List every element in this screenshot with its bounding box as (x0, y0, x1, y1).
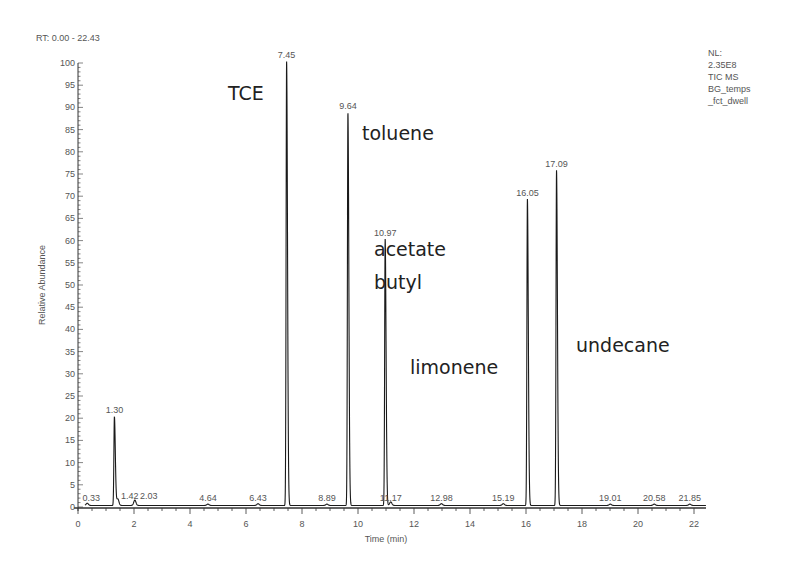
y-tick-label: 50 (65, 280, 75, 290)
y-tick-label: 20 (65, 413, 75, 423)
info-line: NL: (708, 48, 722, 58)
peak-rt-label: 6.43 (249, 493, 267, 503)
info-line: _fct_dwell (707, 96, 748, 106)
y-tick-label: 5 (70, 480, 75, 490)
peak-rt-label: 1.42 (121, 491, 139, 501)
peak-rt-label: 19.01 (599, 493, 622, 503)
y-tick-label: 85 (65, 125, 75, 135)
x-tick-label: 6 (243, 519, 248, 529)
y-tick-label: 0 (70, 502, 75, 512)
peak-rt-label: 8.89 (318, 493, 336, 503)
y-tick-label: 40 (65, 324, 75, 334)
peak-rt-label: 11.17 (380, 493, 402, 503)
x-tick-label: 18 (577, 519, 587, 529)
y-tick-label: 100 (60, 58, 75, 68)
peak-rt-label: 7.45 (278, 50, 296, 60)
x-tick-label: 2 (131, 519, 136, 529)
compound-label: TCE (227, 82, 264, 104)
y-tick-label: 25 (65, 391, 75, 401)
y-tick-label: 60 (65, 236, 75, 246)
compound-label: acetate (374, 238, 446, 260)
peak-rt-label: 15.19 (492, 493, 515, 503)
y-tick-label: 80 (65, 147, 75, 157)
peak-rt-label: 10.97 (374, 228, 397, 238)
peak-rt-label: 12.98 (430, 493, 453, 503)
peak-rt-label: 20.58 (643, 493, 666, 503)
compound-label: toluene (362, 122, 434, 144)
peak-rt-label: 21.85 (679, 493, 702, 503)
x-tick-label: 8 (299, 519, 304, 529)
peak-rt-label: 17.09 (545, 159, 568, 169)
x-tick-label: 0 (75, 519, 80, 529)
y-tick-label: 95 (65, 80, 75, 90)
y-tick-label: 75 (65, 169, 75, 179)
peak-rt-label: 1.30 (106, 405, 124, 415)
x-tick-label: 14 (465, 519, 475, 529)
y-tick-label: 10 (65, 458, 75, 468)
x-tick-label: 20 (633, 519, 643, 529)
y-tick-label: 15 (65, 435, 75, 445)
y-tick-label: 45 (65, 302, 75, 312)
y-tick-label: 90 (65, 102, 75, 112)
info-line: 2.35E8 (708, 60, 737, 70)
compound-label: butyl (374, 271, 422, 293)
peak-rt-label: 4.64 (199, 493, 217, 503)
compound-label: limonene (410, 356, 498, 378)
rt-range-label: RT: 0.00 - 22.43 (36, 33, 100, 43)
info-line: TIC MS (708, 72, 739, 82)
x-tick-label: 10 (353, 519, 363, 529)
y-axis-title: Relative Abundance (37, 245, 47, 325)
peak-rt-label: 0.33 (82, 493, 100, 503)
y-tick-label: 70 (65, 191, 75, 201)
y-tick-label: 35 (65, 347, 75, 357)
peak-rt-label: 9.64 (339, 101, 357, 111)
x-tick-label: 4 (187, 519, 192, 529)
chromatogram-chart: RT: 0.00 - 22.43 NL: 2.35E8 TIC MS BG_te… (0, 0, 805, 584)
x-axis-title: Time (min) (365, 534, 408, 544)
y-tick-label: 65 (65, 213, 75, 223)
y-tick-label: 55 (65, 258, 75, 268)
x-tick-label: 22 (689, 519, 699, 529)
info-block: NL: 2.35E8 TIC MS BG_temps _fct_dwell (707, 48, 751, 106)
peak-rt-label: 2.03 (140, 491, 158, 501)
peak-rt-label: 16.05 (516, 188, 539, 198)
compound-labels: TCEtolueneacetatebutyllimoneneundecane (227, 82, 670, 378)
y-tick-label: 30 (65, 369, 75, 379)
info-line: BG_temps (708, 84, 751, 94)
x-tick-label: 16 (521, 519, 531, 529)
compound-label: undecane (576, 334, 670, 356)
x-tick-label: 12 (409, 519, 419, 529)
